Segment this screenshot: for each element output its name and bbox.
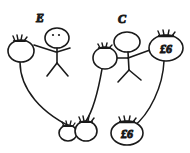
figure-c-torso	[128, 52, 129, 70]
node-mid-top-body	[93, 47, 117, 69]
node-bottom-b-body	[75, 121, 97, 141]
figure-e-eye-left	[52, 34, 54, 36]
node-bottom-right-label: £6	[120, 127, 133, 141]
figure-e-label: E	[35, 11, 44, 25]
node-bottom-a-body	[59, 125, 77, 141]
figure-c-label: C	[118, 12, 127, 26]
sketch-canvas: E C	[0, 0, 190, 153]
node-right-top-label: £6	[159, 42, 172, 56]
node-left-top-body	[8, 40, 34, 62]
figure-e-eye-right	[58, 34, 60, 36]
